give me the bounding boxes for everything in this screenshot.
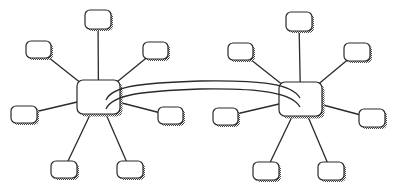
peripheral-node-body: [253, 162, 279, 180]
peripheral-node-body: [11, 106, 37, 123]
peripheral-node-body: [117, 161, 143, 178]
peripheral-node: [253, 162, 281, 182]
peripheral-node-body: [228, 43, 253, 60]
peripheral-node: [359, 109, 387, 129]
peripheral-node-body: [213, 108, 238, 125]
peripheral-node: [117, 161, 145, 180]
peripheral-node-body: [143, 42, 168, 59]
peripheral-node-body: [318, 162, 344, 180]
peripheral-node: [11, 106, 39, 125]
peripheral-node: [143, 42, 170, 61]
peripheral-node: [228, 43, 255, 62]
peripheral-node-body: [85, 10, 111, 29]
diagram-svg: [0, 0, 400, 192]
peripheral-nodes: [11, 10, 387, 182]
network-diagram: [0, 0, 400, 192]
peripheral-node: [158, 107, 185, 126]
peripheral-node-body: [359, 109, 385, 127]
peripheral-node-body: [286, 12, 312, 31]
peripheral-node: [51, 161, 79, 180]
peripheral-node-body: [51, 161, 77, 178]
peripheral-node: [286, 12, 314, 33]
trunk-link-ends: [106, 81, 300, 109]
peripheral-node: [213, 108, 240, 127]
hub-node-body: [77, 80, 120, 114]
peripheral-node: [344, 43, 372, 63]
trunk-link: [106, 81, 300, 100]
peripheral-node: [26, 41, 53, 60]
hub-node: [77, 80, 123, 117]
peripheral-node-body: [344, 43, 370, 61]
peripheral-node-body: [26, 41, 51, 58]
hub-nodes: [77, 80, 325, 119]
peripheral-node: [85, 10, 113, 31]
peripheral-node-body: [158, 107, 183, 124]
peripheral-node: [318, 162, 346, 182]
